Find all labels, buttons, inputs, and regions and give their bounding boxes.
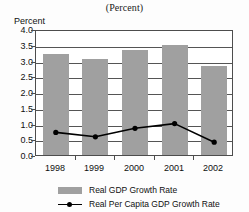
y-axis-tick-mark	[31, 46, 35, 47]
x-axis-tick-mark	[193, 156, 194, 160]
y-axis-tick-label: 4.0	[7, 26, 33, 35]
line-marker-icon	[58, 201, 82, 208]
y-axis-tick-label: 2.0	[7, 89, 33, 98]
line-marker	[53, 130, 58, 135]
y-axis-tick-mark	[31, 77, 35, 78]
y-axis-tick-mark	[31, 125, 35, 126]
y-axis-tick-labels: 4.03.53.02.52.01.51.00.50.0	[3, 0, 33, 212]
y-axis-tick-mark	[31, 156, 35, 157]
y-axis-tick-mark	[31, 62, 35, 63]
legend-label-line: Real Per Capita GDP Growth Rate	[89, 199, 220, 209]
y-axis-tick-label: 3.0	[7, 58, 33, 67]
plot-area	[35, 30, 233, 156]
y-axis-tick-mark	[31, 30, 35, 31]
line-marker	[212, 140, 217, 145]
x-axis-tick-label: 1999	[74, 163, 114, 173]
legend-label-bar: Real GDP Growth Rate	[89, 185, 177, 195]
y-axis-tick-label: 2.5	[7, 73, 33, 82]
x-axis-tick-label: 2001	[154, 163, 194, 173]
y-axis-tick-mark	[31, 109, 35, 110]
x-axis-tick-label: 1998	[35, 163, 75, 173]
line-marker	[172, 121, 177, 126]
x-axis-tick-label: 2000	[114, 163, 154, 173]
chart-figure: (Percent) Percent 4.03.53.02.52.01.51.00…	[0, 0, 249, 212]
bar-swatch-icon	[58, 187, 82, 194]
line-marker	[132, 126, 137, 131]
chart-subtitle: (Percent)	[0, 2, 249, 14]
legend-item-bar: Real GDP Growth Rate	[58, 184, 238, 196]
x-axis-tick-mark	[75, 156, 76, 160]
line-marker	[93, 134, 98, 139]
y-axis-tick-label: 1.5	[7, 105, 33, 114]
x-axis-tick-mark	[154, 156, 155, 160]
line-series	[36, 31, 233, 156]
x-axis-tick-mark	[114, 156, 115, 160]
y-axis-tick-mark	[31, 140, 35, 141]
y-axis-tick-label: 3.5	[7, 42, 33, 51]
line-swatch-marker	[67, 202, 72, 207]
legend-item-line: Real Per Capita GDP Growth Rate	[58, 198, 238, 210]
y-axis-tick-label: 0.0	[7, 152, 33, 161]
y-axis-tick-label: 0.5	[7, 136, 33, 145]
y-axis-tick-label: 1.0	[7, 121, 33, 130]
x-axis-tick-label: 2002	[193, 163, 233, 173]
chart-legend: Real GDP Growth Rate Real Per Capita GDP…	[58, 184, 238, 212]
y-axis-tick-mark	[31, 93, 35, 94]
